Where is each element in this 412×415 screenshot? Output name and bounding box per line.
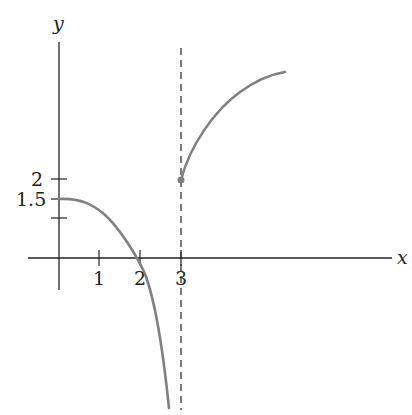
chart: 1 2 3 2 1.5 y x xyxy=(0,0,412,415)
y-tick-label-2: 2 xyxy=(31,168,43,190)
y-axis-label: y xyxy=(52,12,64,34)
left-branch-curve xyxy=(59,199,169,408)
closed-point-marker xyxy=(178,177,185,184)
x-tick-label-1: 1 xyxy=(93,267,105,289)
x-axis-label: x xyxy=(397,246,408,268)
y-tick-label-1-5: 1.5 xyxy=(16,188,46,210)
chart-svg: 1 2 3 2 1.5 y x xyxy=(0,0,412,415)
right-branch-curve xyxy=(181,72,285,180)
